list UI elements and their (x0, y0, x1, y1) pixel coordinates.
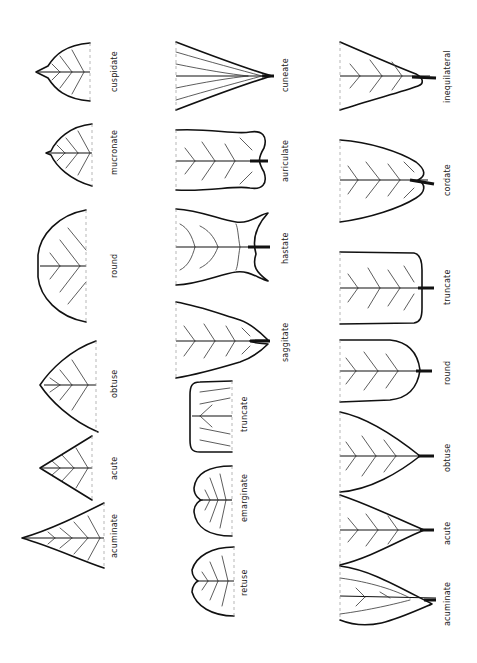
leaf-emarginate-apex (194, 466, 232, 536)
label-acute-base: acute (443, 522, 452, 545)
leaf-mucronate-apex (46, 124, 92, 186)
leaf-acute-base (340, 495, 434, 565)
label-obtuse-base: obtuse (443, 444, 452, 472)
leaf-hastate-base (176, 209, 270, 285)
leaf-truncate-apex (190, 381, 232, 452)
leaf-truncate-base (340, 252, 434, 324)
label-acute: acute (110, 457, 119, 480)
label-inequilateral: inequilateral (443, 50, 452, 103)
label-truncate-apex: truncate (240, 396, 249, 432)
label-hastate: hastate (281, 232, 290, 264)
label-round: round (110, 254, 119, 278)
leaf-round-apex (38, 210, 86, 322)
leaf-acuminate-base (340, 566, 436, 625)
label-emarginate: emarginate (240, 474, 249, 522)
label-obtuse: obtuse (110, 370, 119, 398)
leaf-cuspidate-apex (36, 43, 90, 101)
label-round-base: round (443, 361, 452, 385)
label-retuse: retuse (240, 569, 249, 596)
leaf-shapes-diagram (0, 0, 477, 663)
leaf-round-base (340, 340, 432, 402)
leaf-obtuse-apex (40, 341, 98, 432)
label-cordate: cordate (443, 164, 452, 196)
label-auriculate: auriculate (281, 140, 290, 182)
leaf-cordate-base (340, 140, 434, 222)
leaf-acute-apex (40, 436, 92, 500)
leaf-obtuse-base (340, 412, 434, 492)
leaf-retuse-apex (192, 547, 234, 616)
leaf-auriculate-base (176, 130, 268, 191)
label-cuspidate: cuspidate (110, 51, 119, 92)
label-acuminate: acuminate (110, 514, 119, 558)
label-acuminate-base: acuminate (443, 582, 452, 626)
label-truncate-base: truncate (443, 269, 452, 305)
leaf-saggitate-base (176, 302, 270, 378)
label-saggitate: saggitate (281, 323, 290, 362)
leaf-acuminate-apex (22, 503, 104, 568)
label-mucronate: mucronate (110, 130, 119, 175)
leaf-inequilateral-base (340, 42, 436, 110)
label-cuneate: cuneate (281, 58, 290, 92)
leaf-cuneate-base (176, 42, 274, 110)
